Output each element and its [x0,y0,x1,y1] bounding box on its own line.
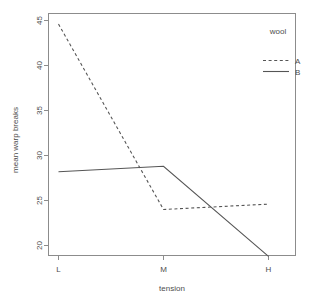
legend-label-A: A [295,57,301,66]
y-tick-label-35: 35 [35,106,44,115]
plot-frame [49,14,296,256]
series-line-B [59,166,269,256]
y-tick-label-40: 40 [35,61,44,70]
series-line-A [59,24,269,209]
x-axis-title: tension [159,284,185,293]
x-axis: L M H tension [56,256,271,294]
y-tick-label-45: 45 [35,16,44,25]
y-tick-marks [44,21,49,246]
legend-label-B: B [295,68,300,77]
legend-title: wool [269,27,287,36]
chart-canvas: 20 25 30 35 40 45 mean warp breaks L M H… [0,0,322,300]
x-tick-marks [59,256,269,261]
interaction-plot: 20 25 30 35 40 45 mean warp breaks L M H… [0,0,322,300]
y-axis: 20 25 30 35 40 45 mean warp breaks [11,16,48,250]
x-tick-label-M: M [160,265,167,274]
y-axis-title: mean warp breaks [11,107,20,173]
x-tick-label-H: H [266,265,272,274]
series-lines [59,24,269,256]
y-tick-label-30: 30 [35,151,44,160]
y-tick-label-25: 25 [35,196,44,205]
x-tick-label-L: L [56,265,61,274]
y-tick-label-20: 20 [35,241,44,250]
